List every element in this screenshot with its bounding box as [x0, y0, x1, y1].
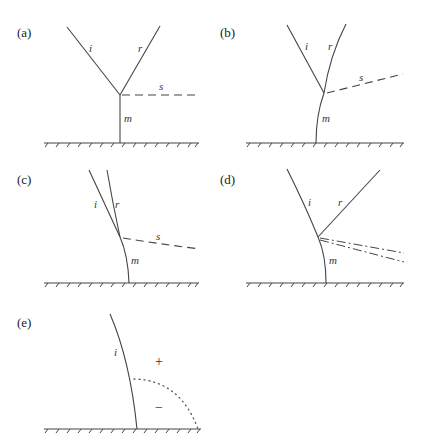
panel-a-label: (a) [17, 25, 31, 40]
reflected-label: r [138, 42, 143, 54]
stem-label: m [131, 254, 139, 266]
incident-label: i [305, 40, 308, 52]
slip-label: s [156, 230, 160, 242]
panel-b-label: (b) [220, 25, 235, 40]
reflected-label: r [115, 198, 120, 210]
ground-wall [44, 143, 199, 147]
ground-wall [246, 283, 404, 287]
ground-wall [44, 429, 201, 433]
slip-line-dashed [327, 74, 403, 93]
reflected-shock-curve [324, 24, 346, 93]
reflected-shock-line [318, 170, 380, 237]
mach-stem-curve [120, 237, 129, 283]
incident-shock-line [67, 27, 120, 95]
panel-b: (b) i r s m [220, 24, 404, 147]
ground-wall [246, 143, 404, 147]
incident-shock-curve [287, 169, 318, 237]
stem-label: m [329, 254, 337, 266]
incident-label: i [89, 42, 92, 54]
panel-d: (d) i r m [220, 169, 404, 287]
mach-stem-curve [318, 237, 326, 283]
incident-label: i [94, 198, 97, 210]
boundary-dotted-arc [134, 379, 198, 429]
plus-sign: + [155, 354, 163, 369]
slip-label: s [359, 71, 363, 83]
slip-label: s [159, 80, 163, 92]
stem-label: m [124, 112, 132, 124]
panel-a: (a) i r s m [17, 25, 199, 147]
incident-shock-line [287, 25, 324, 93]
minus-sign: − [155, 400, 163, 415]
panel-c-label: (c) [17, 172, 31, 187]
incident-label: i [308, 196, 311, 208]
panel-e-label: (e) [17, 315, 31, 330]
stem-label: m [322, 112, 330, 124]
incident-shock-curve [110, 314, 137, 429]
ground-wall [44, 283, 199, 287]
reflected-shock-line [120, 26, 160, 95]
incident-label: i [114, 346, 117, 358]
panel-e: (e) i + − [17, 314, 201, 433]
slip-line-upper-dashdot [320, 238, 404, 253]
reflected-label: r [338, 196, 343, 208]
shock-reflection-diagram: (a) i r s m (b) i r s m [0, 0, 424, 446]
reflected-label: r [328, 40, 333, 52]
slip-line-dashed [123, 238, 200, 249]
panel-d-label: (d) [220, 172, 235, 187]
panel-c: (c) i r s m [17, 170, 200, 287]
